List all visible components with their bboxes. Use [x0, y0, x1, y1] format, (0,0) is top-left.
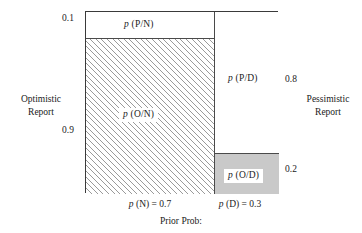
- left-axis-title-line1: Optimistic: [8, 93, 74, 106]
- axis-value-left-bottom: 0.9: [62, 126, 74, 136]
- plot-frame: p (P/N) p (O/N) p (P/D) p (O/D): [85, 11, 278, 193]
- region-label-o-given-d: p (O/D): [224, 169, 263, 183]
- axis-value-right-bottom: 0.2: [285, 165, 297, 175]
- axis-value-left-top: 0.1: [62, 14, 74, 24]
- right-axis-title-line2: Report: [296, 106, 360, 119]
- column-label-normal: p (N) = 0.7: [110, 200, 190, 210]
- region-label-o-given-n: p (O/N): [119, 108, 158, 122]
- left-axis-title: Optimistic Report: [8, 93, 74, 119]
- region-label-p-given-d: p (P/D): [228, 74, 258, 84]
- region-label-p-given-n: p (P/N): [124, 20, 154, 30]
- column-label-defective: p (D) = 0.3: [200, 200, 280, 210]
- column-divider: [214, 12, 215, 194]
- right-axis-title-line1: Pessimistic: [296, 93, 360, 106]
- right-axis-title: Pessimistic Report: [296, 93, 360, 119]
- probability-mosaic-figure: 0.1 0.9 0.8 0.2 Optimistic Report Pessim…: [0, 0, 362, 233]
- left-axis-title-line2: Report: [8, 106, 74, 119]
- axis-value-right-top: 0.8: [285, 75, 297, 85]
- figure-caption: Prior Prob:: [131, 217, 231, 227]
